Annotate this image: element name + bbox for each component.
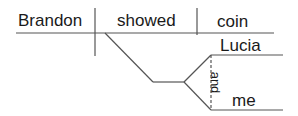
indirect-object-lucia: Lucia	[220, 37, 261, 54]
conjunction-word: and	[209, 72, 222, 94]
fork-upper	[184, 55, 211, 82]
verb-word: showed	[117, 12, 176, 29]
fork-lower	[184, 82, 211, 110]
indirect-object-me: me	[232, 92, 256, 109]
subject-word: Brandon	[18, 12, 82, 29]
direct-object-word: coin	[217, 13, 248, 30]
indirect-object-slant	[105, 33, 153, 82]
